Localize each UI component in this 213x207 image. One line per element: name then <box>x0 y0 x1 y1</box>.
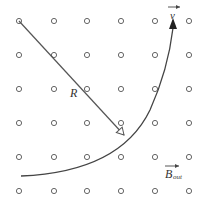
svg-text:v: v <box>170 9 175 21</box>
field-out-dot-icon <box>16 86 21 91</box>
magnetic-field-diagram: R v B out <box>0 0 213 207</box>
field-out-dot-icon <box>152 52 157 57</box>
velocity-label: v <box>168 5 180 21</box>
field-out-dot-icon <box>16 52 21 57</box>
field-out-dot-icon <box>152 86 157 91</box>
field-out-dot-icon <box>84 52 89 57</box>
field-out-dot-icon <box>16 120 21 125</box>
field-out-dot-icon <box>16 188 21 193</box>
field-out-dot-icon <box>186 86 191 91</box>
field-out-dot-icon <box>186 18 191 23</box>
field-out-dot-icon <box>51 120 56 125</box>
field-out-dot-icon <box>118 52 123 57</box>
field-out-dot-icon <box>186 188 191 193</box>
field-out-dot-icon <box>84 120 89 125</box>
field-out-dot-icon <box>16 154 21 159</box>
field-out-dot-icon <box>152 120 157 125</box>
field-out-dot-icon <box>84 188 89 193</box>
field-out-dot-icon <box>152 18 157 23</box>
radius-vector <box>19 21 124 135</box>
field-out-dot-icon <box>118 18 123 23</box>
field-out-dot-icon <box>84 18 89 23</box>
field-out-dot-icon <box>186 52 191 57</box>
field-out-dot-icon <box>186 154 191 159</box>
field-out-dot-icon <box>118 120 123 125</box>
field-out-dot-icon <box>51 188 56 193</box>
field-label: B out <box>165 164 183 181</box>
svg-text:out: out <box>173 173 183 181</box>
field-out-dot-icon <box>118 188 123 193</box>
field-out-dot-icon <box>51 154 56 159</box>
svg-text:B: B <box>165 167 173 181</box>
field-out-dot-icon <box>152 154 157 159</box>
field-out-dot-icon <box>152 188 157 193</box>
field-out-dot-icon <box>118 86 123 91</box>
radius-label: R <box>69 86 78 100</box>
particle-trajectory-arc <box>21 28 173 176</box>
field-out-dot-icon <box>51 18 56 23</box>
field-out-dot-icon <box>186 120 191 125</box>
field-out-dot-icon <box>118 154 123 159</box>
field-out-dot-icon <box>51 86 56 91</box>
field-out-dot-icon <box>84 154 89 159</box>
field-out-dot-icon <box>84 86 89 91</box>
